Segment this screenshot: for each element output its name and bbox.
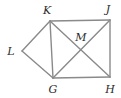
segment-GH [53, 77, 110, 78]
vertex-label-H: H [105, 84, 115, 95]
vertex-label-M: M [75, 32, 86, 43]
segment-group [22, 20, 110, 78]
geometry-figure: K J L M G H [0, 0, 121, 98]
segment-LK [22, 21, 50, 51]
vertex-label-G: G [49, 84, 58, 95]
vertex-label-J: J [106, 4, 110, 15]
vertex-label-K: K [43, 5, 51, 16]
segment-LG [22, 51, 53, 78]
vertex-label-L: L [7, 46, 14, 57]
segment-KJ [50, 20, 110, 21]
segment-KG [50, 21, 53, 78]
geometry-canvas [0, 0, 121, 98]
